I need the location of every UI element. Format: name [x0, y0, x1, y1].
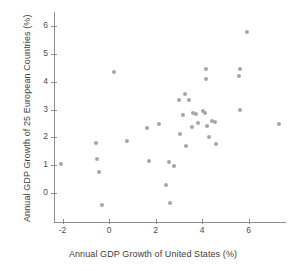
y-tick-mark	[51, 82, 57, 83]
y-tick-mark	[51, 193, 57, 194]
data-point	[125, 139, 129, 143]
data-point	[238, 67, 242, 71]
data-point	[204, 77, 208, 81]
x-tick-mark	[202, 219, 203, 224]
y-tick-label: 4	[36, 77, 48, 86]
data-point	[112, 70, 116, 74]
data-point	[59, 162, 63, 166]
x-tick-mark	[109, 219, 110, 224]
data-point	[100, 203, 104, 207]
data-point	[194, 112, 198, 116]
y-tick-label: 3	[36, 105, 48, 114]
x-tick-mark	[63, 219, 64, 224]
y-tick-label: 5	[36, 49, 48, 58]
data-point	[277, 122, 281, 126]
x-tick-mark	[249, 219, 250, 224]
data-point	[238, 108, 242, 112]
data-point	[172, 164, 176, 168]
data-point	[213, 120, 217, 124]
data-point	[183, 92, 187, 96]
data-point	[97, 170, 101, 174]
x-tick-mark	[156, 219, 157, 224]
y-tick-mark	[51, 54, 57, 55]
data-point	[205, 124, 209, 128]
data-point	[95, 157, 99, 161]
data-point	[178, 132, 182, 136]
data-point	[214, 142, 218, 146]
x-tick-label: 2	[146, 226, 166, 235]
data-point	[204, 67, 208, 71]
y-axis-line	[54, 12, 55, 223]
y-tick-mark	[51, 26, 57, 27]
data-point	[196, 121, 200, 125]
y-tick-label: 2	[36, 132, 48, 141]
scatter-plot-figure: -202460123456 Annual GDP Growth of Unite…	[0, 0, 306, 271]
data-point	[203, 111, 207, 115]
data-point	[157, 122, 161, 126]
x-axis-title: Annual GDP Growth of United States (%)	[0, 249, 306, 259]
x-tick-label: 6	[239, 226, 259, 235]
data-point	[184, 144, 188, 148]
y-tick-label: 0	[36, 188, 48, 197]
y-tick-mark	[51, 165, 57, 166]
data-point	[181, 113, 185, 117]
x-tick-label: -2	[53, 226, 73, 235]
y-tick-mark	[51, 137, 57, 138]
data-point	[94, 141, 98, 145]
data-point	[207, 135, 211, 139]
data-point	[237, 74, 241, 78]
x-tick-label: 4	[192, 226, 212, 235]
data-point	[167, 160, 171, 164]
data-point	[168, 201, 172, 205]
x-axis-line	[54, 222, 286, 223]
data-point	[245, 30, 249, 34]
y-axis-title: Annual GDP Growth of 25 European Countri…	[22, 14, 32, 222]
data-point	[145, 126, 149, 130]
data-point	[164, 183, 168, 187]
y-tick-label: 1	[36, 160, 48, 169]
x-tick-label: 0	[99, 226, 119, 235]
data-point	[147, 159, 151, 163]
y-tick-mark	[51, 110, 57, 111]
data-point	[190, 125, 194, 129]
data-point	[177, 98, 181, 102]
y-tick-label: 6	[36, 21, 48, 30]
data-point	[187, 98, 191, 102]
